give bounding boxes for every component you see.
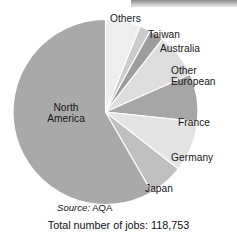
slice-label-other-european-line2: European	[171, 76, 216, 87]
pie-chart-figure: North America Others Taiwan Australia Ot…	[0, 0, 237, 239]
slice-label-north-america-line1: North	[53, 102, 78, 113]
slice-label-japan: Japan	[145, 183, 173, 195]
slice-label-others: Others	[110, 13, 141, 25]
total-jobs-caption: Total number of jobs: 118,753	[0, 219, 237, 231]
source-note-value: AQA	[92, 202, 112, 213]
slice-label-north-america: North America	[38, 102, 94, 125]
slice-label-australia: Australia	[160, 43, 200, 55]
source-note-prefix: Source:	[57, 202, 90, 213]
slice-label-germany: Germany	[171, 152, 213, 164]
slice-label-other-european: Other European	[171, 65, 216, 88]
source-note: Source: AQA	[57, 202, 112, 213]
slice-label-france: France	[178, 117, 210, 129]
slice-label-other-european-line1: Other	[171, 65, 197, 76]
slice-label-north-america-line2: America	[47, 113, 85, 124]
slice-label-taiwan: Taiwan	[148, 29, 180, 41]
